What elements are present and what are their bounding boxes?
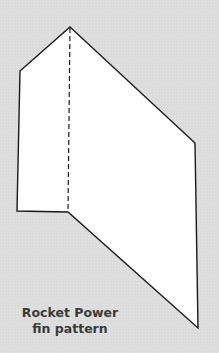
caption-line-1: Rocket Power	[8, 305, 132, 321]
fin-pattern-drawing	[0, 0, 219, 353]
caption-line-2: fin pattern	[8, 321, 132, 337]
figure-caption: Rocket Power fin pattern	[8, 305, 132, 337]
fin-outline	[17, 27, 198, 328]
fin-pattern-figure: Rocket Power fin pattern	[0, 0, 219, 353]
